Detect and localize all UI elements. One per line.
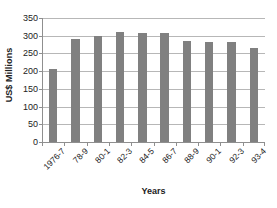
bar bbox=[160, 33, 168, 142]
bar-slot bbox=[220, 18, 242, 142]
bar bbox=[49, 69, 57, 142]
bar bbox=[227, 42, 235, 142]
x-tick-label: 92-3 bbox=[227, 146, 246, 165]
x-tick-label: 1976-7 bbox=[42, 146, 68, 172]
bar-slot bbox=[198, 18, 220, 142]
bar-slot bbox=[131, 18, 153, 142]
y-tick-label: 50 bbox=[28, 119, 38, 129]
bar bbox=[116, 32, 124, 142]
bar-slot bbox=[243, 18, 265, 142]
y-tick-label: 250 bbox=[23, 48, 38, 58]
y-tick-label: 200 bbox=[23, 66, 38, 76]
plot-area bbox=[42, 18, 265, 142]
y-tick-label: 350 bbox=[23, 13, 38, 23]
x-tick-label: 90-1 bbox=[204, 146, 223, 165]
y-axis-title: US$ Millions bbox=[0, 0, 18, 150]
bar-series bbox=[42, 18, 265, 142]
y-tick-label: 100 bbox=[23, 102, 38, 112]
x-axis-title: Years bbox=[42, 186, 265, 196]
y-tick-label: 150 bbox=[23, 84, 38, 94]
x-axis-tick-labels: 1976-778-980-182-384-586-788-990-192-393… bbox=[42, 146, 265, 184]
bar-slot bbox=[64, 18, 86, 142]
x-tick-label: 86-7 bbox=[160, 146, 179, 165]
bar-slot bbox=[153, 18, 175, 142]
bar-slot bbox=[42, 18, 64, 142]
x-tick-label: 78-9 bbox=[71, 146, 90, 165]
y-tick-label: 300 bbox=[23, 31, 38, 41]
bar bbox=[183, 41, 191, 142]
bar-slot bbox=[87, 18, 109, 142]
x-tick-label: 82-3 bbox=[115, 146, 134, 165]
y-axis-tick-labels: 050100150200250300350 bbox=[18, 18, 40, 142]
x-tick-label: 80-1 bbox=[93, 146, 112, 165]
x-tick-label: 88-9 bbox=[182, 146, 201, 165]
bar-slot bbox=[109, 18, 131, 142]
x-tick-label: 93-4 bbox=[249, 146, 268, 165]
bar bbox=[138, 33, 146, 142]
bar bbox=[71, 39, 79, 142]
x-tick-label: 84-5 bbox=[137, 146, 156, 165]
bar-chart: US$ Millions 050100150200250300350 1976-… bbox=[0, 0, 277, 208]
bar bbox=[205, 42, 213, 142]
bar-slot bbox=[176, 18, 198, 142]
y-tick-label: 0 bbox=[33, 137, 38, 147]
bar bbox=[94, 36, 102, 142]
y-axis-title-text: US$ Millions bbox=[4, 48, 14, 103]
bar bbox=[250, 48, 258, 142]
